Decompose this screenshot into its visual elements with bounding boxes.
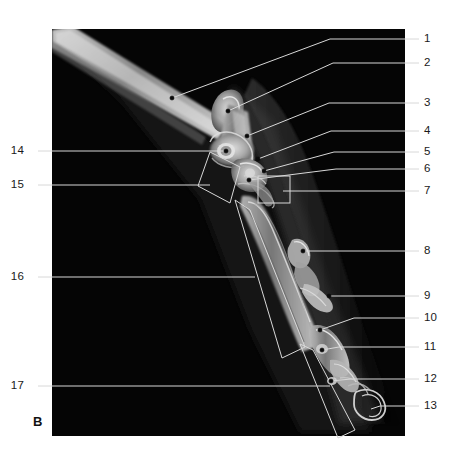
label-number-5: 5 xyxy=(424,146,431,158)
radiograph-plate xyxy=(52,26,405,436)
label-number-4: 4 xyxy=(424,125,431,137)
leader-dot-10 xyxy=(318,328,322,332)
label-number-6: 6 xyxy=(424,163,431,175)
label-number-7: 7 xyxy=(424,185,431,197)
label-number-14: 14 xyxy=(0,145,24,157)
label-number-8: 8 xyxy=(424,245,431,257)
label-number-11: 11 xyxy=(424,341,436,353)
leader-dot-3 xyxy=(245,134,249,138)
leader-dot-5 xyxy=(262,169,266,173)
leader-dot-9 xyxy=(327,294,331,298)
leader-dot-2 xyxy=(226,109,230,113)
label-number-17: 17 xyxy=(0,380,24,392)
leader-dot-14 xyxy=(224,149,228,153)
label-number-15: 15 xyxy=(0,179,24,191)
label-number-16: 16 xyxy=(0,271,24,283)
label-number-13: 13 xyxy=(424,400,437,412)
label-number-10: 10 xyxy=(424,312,437,324)
leader-dot-12 xyxy=(329,379,333,383)
radiograph-figure xyxy=(0,0,454,461)
leader-dot-8 xyxy=(301,249,305,253)
leader-dot-1 xyxy=(170,96,174,100)
leader-dot-6 xyxy=(247,178,251,182)
label-number-2: 2 xyxy=(424,57,431,69)
label-number-1: 1 xyxy=(424,33,431,45)
label-number-9: 9 xyxy=(424,290,431,302)
label-number-12: 12 xyxy=(424,373,437,385)
leader-dot-4 xyxy=(256,157,260,161)
leader-dot-11 xyxy=(320,348,324,352)
panel-letter: B xyxy=(33,414,42,429)
label-number-3: 3 xyxy=(424,97,431,109)
figure-panel: 12345678910111213 14151617 B xyxy=(0,0,454,461)
